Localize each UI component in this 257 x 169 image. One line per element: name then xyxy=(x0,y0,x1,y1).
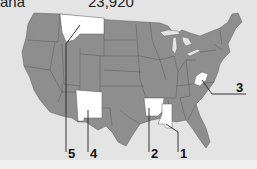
bottom-band xyxy=(0,160,257,169)
label-4: 4 xyxy=(90,146,97,161)
us-mainland xyxy=(22,13,242,148)
label-3: 3 xyxy=(236,80,243,95)
label-1: 1 xyxy=(180,146,187,161)
label-2: 2 xyxy=(151,146,158,161)
label-5: 5 xyxy=(68,146,75,161)
us-map xyxy=(0,0,257,169)
state-new-mexico[interactable] xyxy=(76,90,102,121)
state-arkansas[interactable] xyxy=(144,98,164,116)
